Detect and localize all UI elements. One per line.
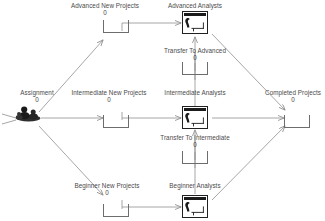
label-transfer-to-intermediate: Transfer To Intermediate 0: [148, 134, 242, 149]
label-text: Beginner New Projects: [74, 182, 139, 189]
label-assignment: Assignment 0: [11, 89, 63, 104]
label-value: 0: [61, 9, 149, 16]
label-text: Advanced New Projects: [71, 2, 139, 9]
resource-advanced-analysts[interactable]: [182, 11, 208, 34]
label-completed-projects: Completed Projects 0: [262, 89, 324, 104]
label-intermediate-new-projects: Intermediate New Projects 0: [61, 89, 157, 104]
label-beginner-new-projects: Beginner New Projects 0: [62, 182, 152, 197]
analyst-workstation-icon: [184, 200, 208, 217]
resource-beginner-analysts[interactable]: [182, 195, 208, 218]
queue-transfer-to-advanced[interactable]: [182, 62, 208, 75]
label-text: Assignment: [20, 89, 53, 96]
people-source-icon: [15, 105, 42, 122]
edge-inflow-lower: [2, 120, 16, 124]
queue-intermediate-new-projects[interactable]: [103, 115, 129, 128]
queue-advanced-new-projects[interactable]: [103, 20, 129, 33]
label-text: Completed Projects: [265, 89, 321, 96]
label-text: Beginner Analysts: [169, 182, 220, 189]
label-advanced-new-projects: Advanced New Projects 0: [61, 2, 149, 17]
queue-completed-projects[interactable]: [284, 115, 310, 128]
label-value: 0: [62, 189, 152, 196]
queue-beginner-new-projects[interactable]: [103, 204, 129, 217]
label-value: 0: [148, 141, 242, 148]
label-text: Transfer To Advanced: [164, 47, 226, 54]
label-text: Advanced Analysts: [168, 2, 222, 9]
label-value: 0: [11, 96, 63, 103]
resource-intermediate-analysts[interactable]: [182, 106, 208, 129]
label-text: Intermediate New Projects: [71, 89, 146, 96]
label-transfer-to-advanced: Transfer To Advanced 0: [152, 47, 238, 62]
source-assignment[interactable]: [15, 105, 42, 122]
analyst-workstation-icon: [184, 16, 208, 33]
queue-transfer-to-intermediate[interactable]: [182, 151, 208, 164]
label-intermediate-analysts: Intermediate Analysts: [152, 89, 238, 96]
diagram-canvas: Advanced New Projects 0 Advanced Analyst…: [0, 0, 325, 221]
label-value: 0: [61, 96, 157, 103]
label-value: 0: [152, 54, 238, 61]
label-beginner-analysts: Beginner Analysts: [157, 182, 233, 189]
label-text: Intermediate Analysts: [164, 89, 225, 96]
analyst-workstation-icon: [184, 111, 208, 128]
edge-inflow-upper: [2, 114, 16, 118]
label-text: Transfer To Intermediate: [160, 134, 229, 141]
label-advanced-analysts: Advanced Analysts: [155, 2, 235, 9]
label-value: 0: [262, 96, 324, 103]
